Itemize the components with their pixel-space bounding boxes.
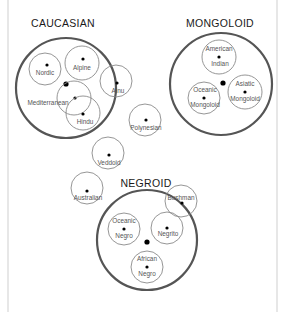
group-label-mongoloid: MONGOLOID: [186, 17, 254, 29]
node-label-oceanic-mongoloid-line2: Mongoloid: [190, 101, 220, 109]
node-nordic: Nordic: [29, 53, 61, 85]
node-label-mediterranean: Mediterranean: [27, 99, 69, 106]
node-polynesian: Polynesian: [129, 104, 162, 136]
node-dot-polynesian: [144, 118, 147, 121]
node-american-indian: American Indian: [202, 40, 236, 74]
node-label-oceanic-negro-line1: Oceanic: [112, 217, 136, 224]
group-label-caucasian: CAUCASIAN: [31, 17, 95, 29]
group-caucasian: CAUCASIAN Nordic Alpine Mediterranean: [16, 17, 132, 138]
node-dot-australian: [85, 189, 88, 192]
node-mediterranean: Mediterranean: [27, 81, 91, 115]
node-label-australian: Australian: [74, 194, 103, 201]
node-veddoid: Veddoid: [92, 137, 124, 169]
node-label-alpine: Alpine: [73, 64, 91, 72]
group-mongoloid: MONGOLOID American Indian Oceanic Mongol…: [170, 17, 272, 135]
node-african-negro: African Negro: [131, 251, 163, 283]
node-dot-ainu: [115, 81, 118, 84]
node-label-bushman: Bushman: [168, 194, 195, 201]
node-label-polynesian: Polynesian: [130, 124, 162, 132]
group-negroid: NEGROID Bushman Oceanic Negro Negrito: [97, 177, 197, 290]
node-hindu: Hindu: [66, 96, 100, 130]
node-dot-african-negro: [145, 265, 148, 268]
node-label-nordic: Nordic: [36, 69, 55, 76]
node-label-veddoid: Veddoid: [97, 159, 121, 166]
node-label-american-indian-line2: Indian: [211, 60, 229, 67]
node-oceanic-negro: Oceanic Negro: [108, 213, 140, 245]
diagram-frame: CAUCASIAN Nordic Alpine Mediterranean: [0, 0, 283, 312]
node-dot-american-indian: [217, 55, 220, 58]
node-dot-nordic: [45, 63, 48, 66]
group-center-dot-negroid: [144, 239, 149, 244]
node-dot-oceanic-mongoloid: [202, 96, 205, 99]
group-center-dot-mongoloid: [220, 80, 225, 85]
node-asiatic-mongoloid: Asiatic Mongoloid: [228, 75, 262, 109]
node-label-hindu: Hindu: [77, 118, 94, 125]
node-label-ainu: Ainu: [112, 87, 125, 94]
node-label-african-negro-line1: African: [137, 255, 157, 262]
node-label-asiatic-mongoloid-line2: Mongoloid: [230, 95, 260, 103]
node-label-asiatic-mongoloid-line1: Asiatic: [236, 80, 256, 87]
group-circle-caucasian: [16, 38, 116, 138]
node-oceanic-mongoloid: Oceanic Mongoloid: [188, 82, 220, 114]
node-australian: Australian: [71, 172, 103, 204]
node-dot-veddoid: [107, 153, 110, 156]
node-alpine: Alpine: [65, 46, 99, 80]
node-dot-oceanic-negro: [122, 227, 125, 230]
node-dot-alpine: [81, 57, 84, 60]
node-label-oceanic-negro-line2: Negro: [115, 232, 133, 240]
node-dot-hindu: [81, 112, 84, 115]
node-label-oceanic-mongoloid-line1: Oceanic: [193, 86, 217, 93]
group-label-negroid: NEGROID: [120, 177, 171, 189]
population-cluster-diagram: CAUCASIAN Nordic Alpine Mediterranean: [0, 0, 283, 312]
node-label-american-indian-line1: American: [206, 45, 233, 52]
node-label-negrito: Negrito: [158, 230, 179, 238]
node-negrito: Negrito: [151, 212, 183, 244]
node-circle-alpine: [65, 46, 99, 80]
node-dot-asiatic-mongoloid: [243, 90, 246, 93]
node-dot-bushman: [180, 201, 183, 204]
node-label-african-negro-line2: Negro: [138, 270, 156, 278]
